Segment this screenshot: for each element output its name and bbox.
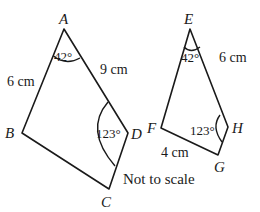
vertex-label-g: G [214,159,225,175]
vertex-label-c: C [101,194,112,210]
angle-label-e: 42° [181,50,199,65]
side-label-ab: 6 cm [7,74,35,89]
not-to-scale-note: Not to scale [123,171,195,187]
angle-label-d: 123° [96,126,121,141]
vertex-label-h: H [231,120,244,136]
vertex-label-e: E [183,11,193,27]
angle-arc-h [216,115,222,142]
vertex-label-d: D [130,126,142,142]
side-label-fg: 4 cm [161,145,189,160]
angle-label-a: 42° [54,49,72,64]
vertex-label-b: B [5,125,14,141]
angle-label-h: 123° [190,123,215,138]
similar-quadrilaterals-diagram: A B C D 42° 123° 6 cm 9 cm E F G H 42° 1… [0,0,260,212]
vertex-label-f: F [146,120,157,136]
quadrilateral-abcd [22,29,128,189]
side-label-ad: 9 cm [100,62,128,77]
side-label-eh: 6 cm [219,50,247,65]
vertex-label-a: A [58,11,69,27]
